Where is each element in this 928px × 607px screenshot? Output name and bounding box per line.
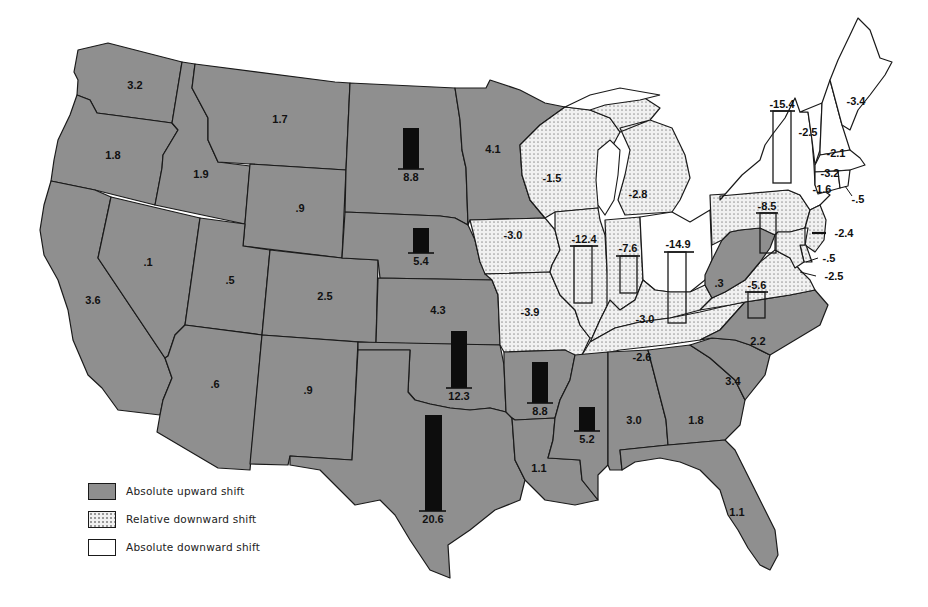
state-arizona <box>157 325 262 470</box>
label-georgia: 1.8 <box>688 414 703 426</box>
label-west-virginia: .3 <box>714 277 723 289</box>
label-utah: .5 <box>225 274 234 286</box>
label-minnesota: 4.1 <box>485 143 500 155</box>
label-new-hampshire: -2.1 <box>827 147 846 159</box>
label-colorado: 2.5 <box>317 290 332 302</box>
legend-item-absolute-downward: Absolute downward shift <box>88 536 260 558</box>
svg-text:20.6: 20.6 <box>422 513 443 525</box>
label-michigan: -2.8 <box>629 188 648 200</box>
label-montana: 1.7 <box>272 113 287 125</box>
state-florida <box>620 440 778 570</box>
label-new-mexico: .9 <box>303 384 312 396</box>
callout-rhode-island: -.5 <box>845 186 864 205</box>
absolute-upward-swatch-icon <box>88 483 116 500</box>
label-idaho: 1.9 <box>193 168 208 180</box>
label-tennessee: -2.6 <box>633 351 652 363</box>
label-connecticut: -1.6 <box>813 183 832 195</box>
label-kentucky: -3.0 <box>636 313 655 325</box>
svg-text:-.5: -.5 <box>852 193 865 205</box>
svg-text:-8.5: -8.5 <box>758 200 777 212</box>
state-maine <box>830 18 892 130</box>
state-rhode-island <box>838 170 850 188</box>
label-wyoming: .9 <box>295 202 304 214</box>
state-iowa <box>470 218 560 274</box>
svg-text:-.5: -.5 <box>823 252 836 264</box>
svg-text:12.3: 12.3 <box>448 390 469 402</box>
label-washington: 3.2 <box>127 79 142 91</box>
svg-text:-14.9: -14.9 <box>665 238 690 250</box>
absolute-downward-swatch-icon <box>88 539 116 556</box>
svg-text:-7.6: -7.6 <box>619 242 638 254</box>
lake-michigan <box>596 140 620 215</box>
svg-text:-5.6: -5.6 <box>748 279 767 291</box>
svg-text:-2.4: -2.4 <box>835 227 855 239</box>
label-wisconsin: -1.5 <box>543 172 562 184</box>
label-florida: 1.1 <box>729 506 744 518</box>
label-massachusetts: -3.2 <box>821 167 840 179</box>
label-north-carolina: 2.2 <box>750 335 765 347</box>
label-california: 3.6 <box>85 294 100 306</box>
map-legend: Absolute upward shift Relative downward … <box>88 480 260 564</box>
svg-text:8.8: 8.8 <box>403 171 418 183</box>
label-missouri: -3.9 <box>521 306 540 318</box>
legend-item-absolute-upward: Absolute upward shift <box>88 480 260 502</box>
state-montana <box>192 64 350 170</box>
label-nevada: .1 <box>143 256 152 268</box>
label-louisiana: 1.1 <box>531 462 546 474</box>
svg-text:5.4: 5.4 <box>413 255 429 267</box>
svg-text:5.2: 5.2 <box>579 433 594 445</box>
label-vermont: -2.5 <box>799 126 818 138</box>
label-kansas: 4.3 <box>430 304 445 316</box>
label-south-carolina: 3.4 <box>725 375 741 387</box>
relative-downward-swatch-icon <box>88 511 116 528</box>
svg-text:-12.4: -12.4 <box>571 233 597 245</box>
label-iowa: -3.0 <box>504 229 523 241</box>
state-new-mexico <box>250 335 358 465</box>
label-oregon: 1.8 <box>105 149 120 161</box>
label-arizona: .6 <box>210 378 219 390</box>
legend-item-relative-downward: Relative downward shift <box>88 508 260 530</box>
label-maine: -3.4 <box>847 95 867 107</box>
svg-text:8.8: 8.8 <box>532 405 547 417</box>
svg-text:-15.4: -15.4 <box>769 98 795 110</box>
label-alabama: 3.0 <box>626 414 641 426</box>
state-ohio <box>640 210 712 292</box>
svg-text:-2.5: -2.5 <box>825 270 844 282</box>
